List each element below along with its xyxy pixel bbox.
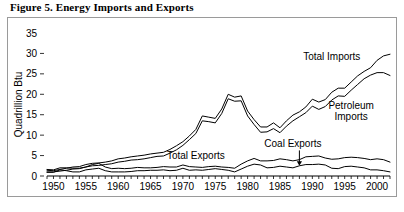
y-tick-label: 15: [26, 109, 38, 120]
y-tick-label: 0: [31, 171, 37, 182]
annotation-label: Petroleum: [328, 100, 374, 111]
x-tick-label: 1965: [139, 181, 162, 192]
x-tick-label: 1990: [301, 181, 324, 192]
y-tick-label: 10: [26, 130, 38, 141]
annotation-label: Imports: [334, 111, 367, 122]
x-tick-label: 1960: [107, 181, 130, 192]
x-tick-label: 1985: [269, 181, 292, 192]
x-tick-label: 1980: [236, 181, 259, 192]
x-tick-label: 1970: [172, 181, 195, 192]
energy-imports-exports-chart: 05101520253035Quadrillion Btu19501955196…: [0, 0, 404, 212]
annotation-label: Coal Exports: [264, 138, 321, 149]
y-tick-label: 35: [26, 28, 38, 39]
x-tick-label: 1950: [42, 181, 65, 192]
x-tick-label: 1995: [334, 181, 357, 192]
annotation-label: Total Imports: [303, 51, 360, 62]
y-axis-title: Quadrillion Btu: [13, 72, 24, 138]
x-tick-label: 1955: [75, 181, 98, 192]
annotation-label: Total Exports: [167, 150, 225, 161]
y-tick-label: 25: [26, 68, 38, 79]
x-tick-label: 2000: [366, 181, 389, 192]
y-tick-label: 20: [26, 89, 38, 100]
y-tick-label: 5: [31, 150, 37, 161]
x-tick-label: 1975: [204, 181, 227, 192]
coal-exports-arrow-icon: [297, 150, 302, 165]
y-tick-label: 30: [26, 48, 38, 59]
